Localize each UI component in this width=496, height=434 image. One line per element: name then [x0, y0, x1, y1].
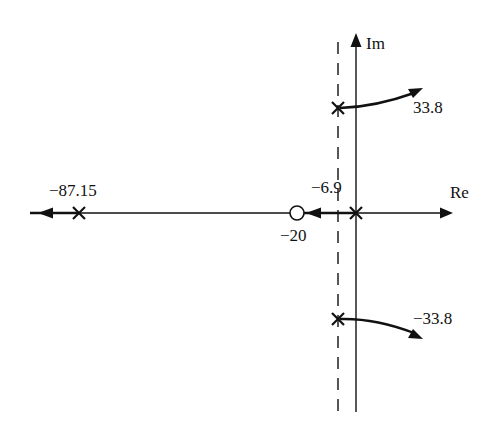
locus-branch-left — [30, 208, 79, 219]
lower-pole-label: −33.8 — [413, 310, 452, 327]
locus-branch-upper — [340, 88, 423, 108]
locus-branch-lower — [340, 319, 423, 339]
real-axis-label: Re — [450, 184, 469, 201]
imaginary-axis — [351, 33, 362, 412]
pole-far-left-label: −87.15 — [49, 182, 97, 199]
real-axis-arrow-icon — [440, 208, 453, 219]
imag-axis-arrow-icon — [351, 33, 362, 47]
imag-axis-label: Im — [366, 35, 385, 52]
branch-arrow-icon — [38, 208, 53, 219]
asymptote-centroid-label: −6.9 — [311, 179, 342, 196]
branch-arrow-icon — [408, 88, 423, 98]
locus-branch-origin-to-zero — [304, 208, 356, 219]
zero-marker — [290, 206, 304, 220]
upper-pole-label: 33.8 — [413, 99, 443, 116]
root-locus-diagram — [0, 0, 496, 434]
zero-label: −20 — [280, 227, 307, 244]
branch-arrow-icon — [306, 208, 321, 219]
real-axis — [30, 208, 453, 219]
